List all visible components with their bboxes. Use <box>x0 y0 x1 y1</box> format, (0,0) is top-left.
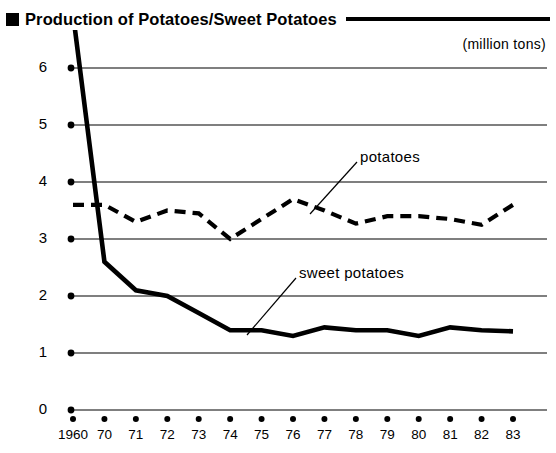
page-title: Production of Potatoes/Sweet Potatoes <box>25 10 337 28</box>
chart-canvas <box>0 0 556 453</box>
y-axis-tick-label: 1 <box>25 345 47 359</box>
x-axis-tick-label: 83 <box>487 428 539 442</box>
filled-square-icon <box>6 13 19 26</box>
annotation-leader-lines <box>247 162 357 335</box>
y-axis-tick-dots <box>68 65 75 414</box>
x-axis-tick-dots <box>70 416 516 422</box>
unit-caption: (million tons) <box>462 36 546 52</box>
y-axis-tick-label: 3 <box>25 231 47 245</box>
series-line-sweet-potatoes <box>73 14 513 336</box>
y-axis-tick-label: 5 <box>25 117 47 131</box>
annotation-potatoes: potatoes <box>360 148 420 165</box>
title-rule <box>346 17 550 21</box>
chart-title-row: Production of Potatoes/Sweet Potatoes <box>6 6 550 32</box>
y-axis-tick-label: 2 <box>25 288 47 302</box>
y-axis-tick-label: 6 <box>25 60 47 74</box>
annotation-sweet-potatoes: sweet potatoes <box>299 264 404 281</box>
series-line-potatoes <box>73 199 513 239</box>
y-axis-tick-label: 4 <box>25 174 47 188</box>
gridlines <box>71 68 547 410</box>
y-axis-tick-label: 0 <box>25 402 47 416</box>
